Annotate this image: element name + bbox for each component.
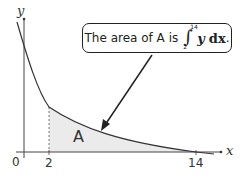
callout-box: The area of A is ∫ 14 2 y dx . [82, 23, 232, 53]
integral-symbol: ∫ 14 2 [182, 26, 196, 50]
origin-label: 0 [12, 155, 20, 169]
region-label-a: A [73, 127, 84, 146]
tick-label-14: 14 [188, 156, 203, 170]
integral-upper-limit: 14 [190, 23, 198, 30]
callout-pointer-line [105, 55, 152, 125]
tick-label-2: 2 [45, 156, 53, 170]
x-axis-label: x [226, 143, 233, 158]
y-axis-arrow-icon [23, 18, 26, 21]
integrand: y [197, 31, 205, 46]
shaded-region-a [49, 107, 196, 152]
integral-lower-limit: 2 [183, 43, 187, 50]
differential: dx [209, 31, 226, 46]
x-axis-arrow-icon [220, 151, 223, 154]
callout-suffix: . [226, 31, 230, 45]
callout-text: The area of A is [85, 31, 179, 45]
y-axis-label: y [17, 3, 24, 18]
